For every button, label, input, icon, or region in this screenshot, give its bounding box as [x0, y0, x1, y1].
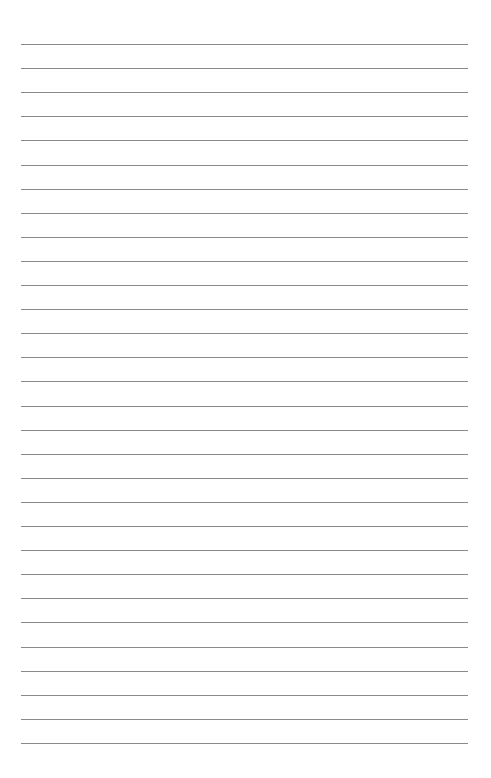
ruled-line: [21, 140, 468, 141]
ruled-line: [21, 68, 468, 69]
ruled-line: [21, 526, 468, 527]
ruled-line: [21, 647, 468, 648]
ruled-line: [21, 189, 468, 190]
ruled-line: [21, 454, 468, 455]
ruled-line: [21, 671, 468, 672]
ruled-line: [21, 309, 468, 310]
ruled-line: [21, 719, 468, 720]
ruled-line: [21, 237, 468, 238]
lined-page: [0, 0, 491, 778]
ruled-line: [21, 333, 468, 334]
ruled-line: [21, 357, 468, 358]
ruled-line: [21, 44, 468, 45]
ruled-line: [21, 598, 468, 599]
ruled-line: [21, 92, 468, 93]
ruled-line: [21, 502, 468, 503]
ruled-line: [21, 550, 468, 551]
ruled-line: [21, 430, 468, 431]
ruled-line: [21, 165, 468, 166]
ruled-line: [21, 743, 468, 744]
ruled-line: [21, 381, 468, 382]
ruled-line: [21, 261, 468, 262]
ruled-line: [21, 622, 468, 623]
ruled-line: [21, 695, 468, 696]
ruled-line: [21, 213, 468, 214]
ruled-line: [21, 406, 468, 407]
ruled-line: [21, 285, 468, 286]
ruled-line: [21, 116, 468, 117]
ruled-line: [21, 478, 468, 479]
ruled-line: [21, 574, 468, 575]
